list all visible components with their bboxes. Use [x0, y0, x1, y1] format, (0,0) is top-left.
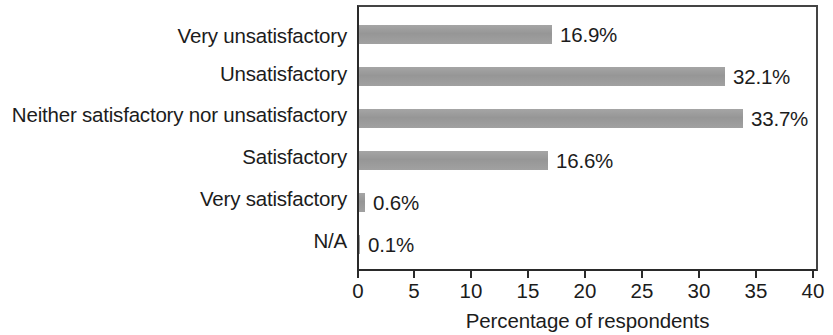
- bar-very-satisfactory: [359, 193, 365, 212]
- category-label-satisfactory: Satisfactory: [242, 146, 347, 168]
- category-label-unsatisfactory: Unsatisfactory: [220, 63, 347, 85]
- bar-neither-satisfactory-nor-unsatisfactory: [359, 109, 743, 128]
- category-label-neither-satisfactory-nor-unsatisfactory: Neither satisfactory nor unsatisfactory: [12, 104, 347, 126]
- x-tick-35: [755, 269, 757, 278]
- x-tick-label-5: 5: [408, 279, 419, 303]
- bar-value-unsatisfactory: 32.1%: [733, 66, 790, 88]
- x-tick-label-20: 20: [574, 279, 597, 303]
- x-tick-25: [641, 269, 643, 278]
- x-tick-0: [357, 269, 359, 278]
- x-tick-5: [413, 269, 415, 278]
- category-label-na: N/A: [313, 230, 347, 252]
- x-tick-label-0: 0: [352, 279, 363, 303]
- bar-value-very-satisfactory: 0.6%: [373, 192, 419, 214]
- x-tick-label-35: 35: [745, 279, 768, 303]
- x-tick-label-15: 15: [517, 279, 540, 303]
- x-tick-40: [812, 269, 814, 278]
- category-label-very-unsatisfactory: Very unsatisfactory: [178, 25, 347, 47]
- bar-value-na: 0.1%: [368, 234, 414, 256]
- bar-na: [359, 235, 360, 254]
- bar-chart: Very unsatisfactory Unsatisfactory Neith…: [0, 0, 833, 335]
- bar-value-very-unsatisfactory: 16.9%: [560, 24, 617, 46]
- x-tick-10: [470, 269, 472, 278]
- bar-satisfactory: [359, 151, 548, 170]
- x-tick-label-25: 25: [631, 279, 654, 303]
- bar-unsatisfactory: [359, 67, 725, 86]
- x-axis-title: Percentage of respondents: [357, 309, 818, 333]
- x-tick-20: [584, 269, 586, 278]
- x-tick-label-30: 30: [688, 279, 711, 303]
- bar-value-neither-satisfactory-nor-unsatisfactory: 33.7%: [751, 108, 808, 130]
- x-axis-ticks: [357, 269, 818, 278]
- bar-very-unsatisfactory: [359, 25, 552, 44]
- x-tick-15: [527, 269, 529, 278]
- x-tick-30: [698, 269, 700, 278]
- category-label-very-satisfactory: Very satisfactory: [200, 188, 347, 210]
- bars-layer: 16.9% 32.1% 33.7% 16.6% 0.6% 0.1%: [359, 7, 816, 269]
- x-tick-label-40: 40: [802, 279, 825, 303]
- x-tick-label-10: 10: [460, 279, 483, 303]
- x-axis-tick-labels: 0 5 10 15 20 25 30 35 40: [0, 279, 833, 307]
- bar-value-satisfactory: 16.6%: [556, 150, 613, 172]
- category-axis-labels: Very unsatisfactory Unsatisfactory Neith…: [0, 0, 352, 270]
